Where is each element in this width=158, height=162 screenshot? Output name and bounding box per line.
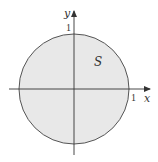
y-tick-label: 1 bbox=[66, 22, 71, 33]
unit-disk-diagram: y 1 S 1 x bbox=[0, 0, 158, 162]
x-axis-label: x bbox=[144, 92, 151, 105]
region-label: S bbox=[94, 55, 102, 69]
y-axis-label: y bbox=[63, 7, 71, 20]
x-tick-label: 1 bbox=[131, 92, 136, 103]
